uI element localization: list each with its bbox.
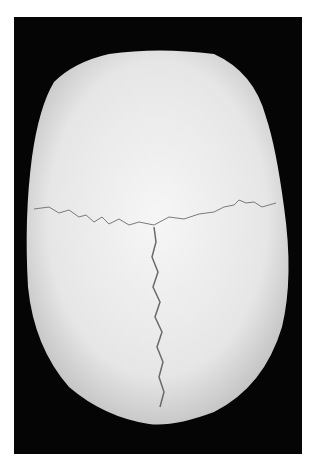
skull-outline bbox=[27, 51, 289, 425]
photo-frame bbox=[14, 17, 302, 454]
skull-photo bbox=[14, 17, 302, 454]
